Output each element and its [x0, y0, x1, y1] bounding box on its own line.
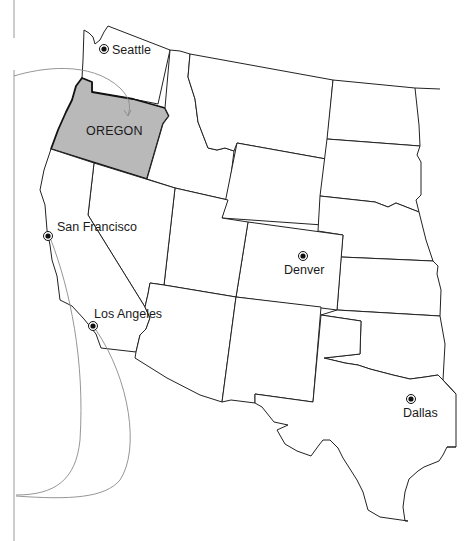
state-north-dakota[interactable] [327, 80, 420, 146]
city-label-san-francisco: San Francisco [57, 220, 137, 234]
city-dot-icon [101, 46, 106, 51]
state-montana[interactable] [188, 54, 333, 159]
city-label-dallas: Dallas [403, 406, 438, 420]
state-kansas[interactable] [337, 257, 441, 316]
city-label-seattle: Seattle [112, 43, 151, 57]
city-dot-icon [300, 253, 305, 258]
city-label-denver: Denver [284, 263, 324, 277]
city-dot-icon [90, 323, 95, 328]
state-arizona[interactable] [135, 283, 236, 402]
city-label-los-angeles: Los Angeles [94, 307, 162, 321]
state-label-oregon: OREGON [86, 124, 143, 138]
state-new-mexico[interactable] [222, 297, 321, 403]
route-los-angeles [16, 330, 130, 498]
city-dot-icon [45, 233, 50, 238]
western-us-map: Seattle San Francisco Los Angeles Denver… [0, 0, 475, 541]
canada-border [415, 88, 440, 89]
city-dot-icon [408, 396, 413, 401]
